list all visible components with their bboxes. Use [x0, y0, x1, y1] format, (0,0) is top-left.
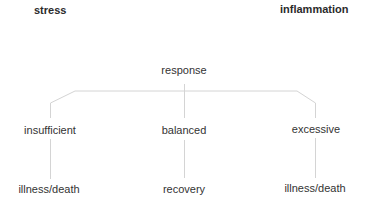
- branch-bar-line: [51, 91, 316, 118]
- connector-lines: [0, 0, 368, 205]
- node-excessive: excessive: [292, 123, 340, 136]
- header-stress: stress: [34, 4, 66, 17]
- header-inflammation: inflammation: [280, 3, 348, 16]
- node-insufficient: insufficient: [24, 124, 76, 137]
- outcome-balanced: recovery: [163, 183, 205, 196]
- node-balanced: balanced: [162, 124, 207, 137]
- node-response: response: [161, 64, 206, 77]
- outcome-insufficient: illness/death: [18, 183, 79, 196]
- outcome-excessive: illness/death: [284, 182, 345, 195]
